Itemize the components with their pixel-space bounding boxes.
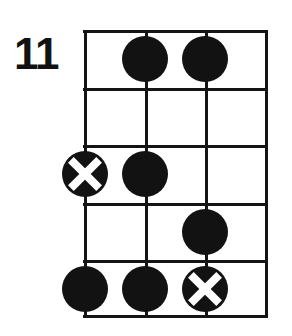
fret-position-label: 11 [14, 30, 72, 78]
marker-fret1-string2 [122, 36, 168, 82]
marker-fret5-string2 [122, 266, 168, 312]
fret-line-4 [83, 260, 268, 263]
marker-fret5-string1 [62, 266, 108, 312]
marker-fret3-string1 [62, 151, 108, 197]
marker-fret1-string3 [182, 36, 228, 82]
chord-diagram: 11 [0, 0, 292, 336]
marker-fret4-string3 [182, 209, 228, 255]
marker-fret5-string3 [182, 266, 228, 312]
marker-fret3-string2 [122, 151, 168, 197]
fret-line-2 [83, 145, 268, 148]
string-line-4 [265, 30, 268, 318]
fret-line-1 [83, 88, 268, 91]
fret-line-5 [83, 315, 268, 318]
fret-line-0 [83, 30, 268, 33]
fretboard-grid [84, 30, 266, 318]
fret-line-3 [83, 203, 268, 206]
